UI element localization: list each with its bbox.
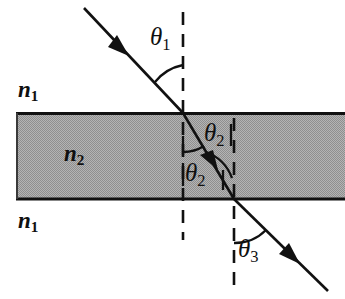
- label-n1-bottom-base: n: [18, 208, 31, 233]
- angle-arc-theta1: [155, 65, 183, 82]
- label-theta3-base: θ: [238, 235, 250, 262]
- label-theta2-upper-base: θ: [204, 119, 216, 146]
- label-theta2-lower-base: θ: [185, 159, 197, 186]
- label-n1-bottom-subscript: 1: [31, 218, 39, 235]
- label-theta1: θ1: [150, 24, 171, 53]
- label-theta2-lower-subscript: 2: [197, 171, 205, 190]
- label-theta2-lower: θ2: [185, 160, 206, 189]
- label-n2-base: n: [64, 141, 77, 166]
- diagram-canvas: [0, 0, 345, 299]
- refraction-diagram: n1 n2 n1 θ1 θ2 θ2 θ3: [0, 0, 345, 299]
- label-n1-top-base: n: [18, 77, 31, 102]
- label-n1-top: n1: [18, 78, 38, 103]
- label-n1-bottom: n1: [18, 209, 38, 234]
- label-theta1-subscript: 1: [162, 35, 170, 54]
- label-n1-top-subscript: 1: [31, 87, 39, 104]
- label-n2-middle: n2: [64, 142, 84, 167]
- label-theta3-subscript: 3: [250, 247, 258, 266]
- label-theta2-upper-subscript: 2: [216, 131, 224, 150]
- label-theta3: θ3: [238, 236, 259, 265]
- label-theta1-base: θ: [150, 23, 162, 50]
- label-n2-subscript: 2: [77, 151, 85, 168]
- label-theta2-upper: θ2: [204, 120, 225, 149]
